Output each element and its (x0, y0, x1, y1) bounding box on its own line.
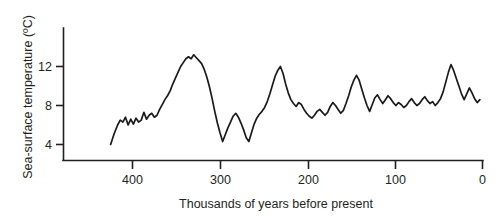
y-tick-label-4: 4 (45, 138, 52, 152)
x-tick-label-300: 300 (210, 173, 231, 187)
y-tick-label-8: 8 (45, 99, 52, 113)
x-tick-label-400: 400 (122, 173, 143, 187)
sea-surface-temperature-line-chart: 12 8 4 400 300 200 100 0 Thousands of ye… (0, 0, 501, 216)
y-axis-title: Sea-surface temperature (ºC) (21, 15, 35, 179)
x-tick-label-200: 200 (298, 173, 319, 187)
y-axis-ticks (56, 67, 64, 145)
chart-figure: 12 8 4 400 300 200 100 0 Thousands of ye… (0, 0, 501, 216)
x-tick-label-100: 100 (385, 173, 406, 187)
y-axis-tick-labels: 12 8 4 (38, 60, 52, 152)
x-axis-title: Thousands of years before present (179, 197, 373, 211)
x-axis-ticks (133, 161, 483, 170)
x-tick-label-0: 0 (479, 173, 486, 187)
temperature-series-line (111, 55, 480, 145)
x-axis-tick-labels: 400 300 200 100 0 (122, 173, 486, 187)
y-tick-label-12: 12 (38, 60, 52, 74)
